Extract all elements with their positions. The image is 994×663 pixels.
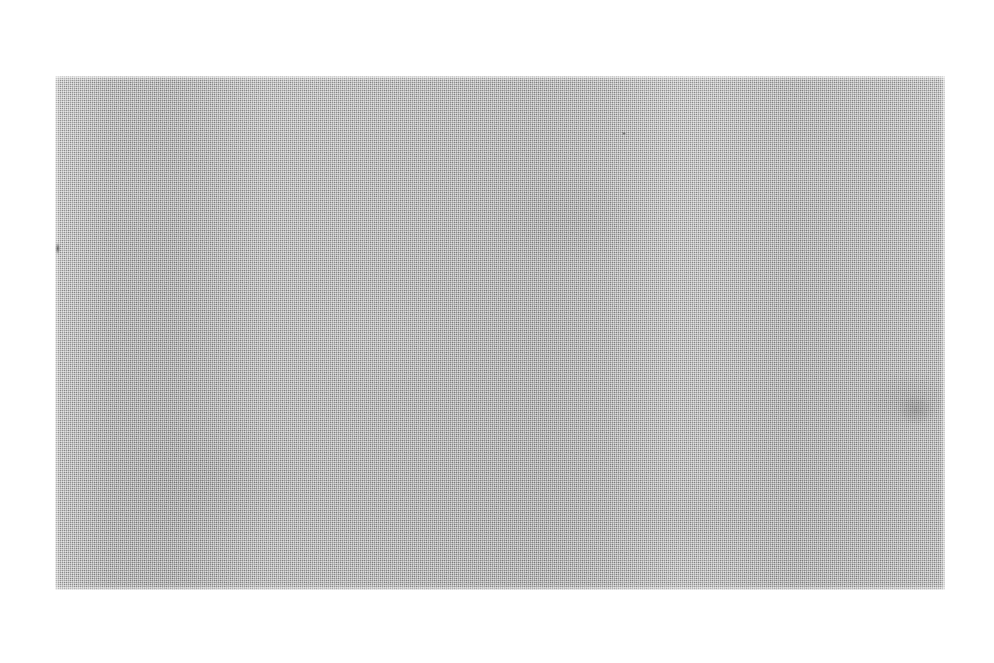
blank-gray-panel <box>55 76 945 590</box>
panel-soft-edge <box>55 76 945 590</box>
screenshot-canvas <box>0 0 994 663</box>
